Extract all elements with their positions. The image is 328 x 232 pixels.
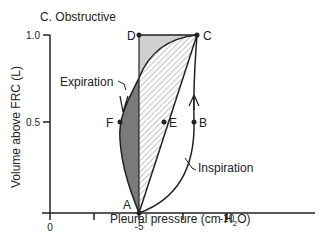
y-axis-label: Volume above FRC (L) (9, 66, 23, 188)
point-b (192, 120, 197, 125)
point-f (118, 120, 123, 125)
x-axis-label: Pleural pressure (cm H2O) (110, 212, 251, 228)
inspiration-label: Inspiration (198, 161, 253, 175)
obstructive-pv-diagram: C. Obstructive Volume above FRC (L) 1.0 … (0, 0, 328, 232)
ytick-label-05: 0.5 (26, 117, 40, 128)
figure-title: C. Obstructive (40, 10, 116, 24)
label-b: B (199, 116, 207, 130)
expiration-leader (118, 81, 126, 90)
point-e (162, 120, 167, 125)
ytick-label-1: 1.0 (26, 30, 40, 41)
label-f: F (106, 116, 113, 130)
label-a: A (123, 198, 131, 212)
expiration-label: Expiration (60, 75, 113, 89)
xtick-label-0: 0 (47, 222, 53, 232)
inspiration-arrow-icon (189, 95, 199, 110)
point-c (195, 33, 200, 38)
point-d (137, 33, 142, 38)
label-d: D (127, 29, 136, 43)
label-c: C (203, 29, 212, 43)
label-e: E (169, 116, 177, 130)
